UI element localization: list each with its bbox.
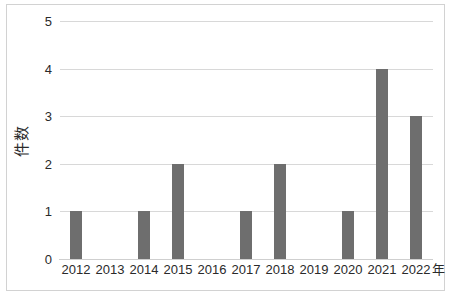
bar bbox=[172, 164, 184, 259]
x-axis-tick-label: 2015 bbox=[164, 262, 193, 278]
bar-slot bbox=[331, 21, 365, 259]
bar-chart: 件数 012345 201220132014201520162017201820… bbox=[0, 0, 451, 296]
bar bbox=[342, 211, 354, 259]
y-axis-tick-label: 1 bbox=[30, 205, 52, 218]
x-axis-tick-label: 2012 bbox=[62, 262, 91, 278]
x-axis-tick-label: 2021 bbox=[368, 262, 397, 278]
gridline bbox=[59, 259, 433, 260]
y-axis-tick-label: 0 bbox=[30, 253, 52, 266]
y-axis-tick-label: 3 bbox=[30, 110, 52, 123]
bar bbox=[240, 211, 252, 259]
x-axis-tick-label: 2013 bbox=[96, 262, 125, 278]
x-axis-tick-label: 2016 bbox=[198, 262, 227, 278]
x-axis-tick-labels: 2012201320142015201620172018201920202021… bbox=[59, 262, 433, 282]
bar-slot bbox=[229, 21, 263, 259]
y-axis-tick-label: 5 bbox=[30, 15, 52, 28]
x-axis-tick-label: 2017 bbox=[232, 262, 261, 278]
plot-area bbox=[59, 21, 433, 259]
bar-slot bbox=[161, 21, 195, 259]
bars-layer bbox=[59, 21, 433, 259]
bar-slot bbox=[399, 21, 433, 259]
bar bbox=[376, 69, 388, 259]
bar bbox=[138, 211, 150, 259]
bar-slot bbox=[127, 21, 161, 259]
y-axis-tick-label: 4 bbox=[30, 62, 52, 75]
x-axis-tick-label: 2019 bbox=[300, 262, 329, 278]
bar-slot bbox=[59, 21, 93, 259]
bar bbox=[274, 164, 286, 259]
bar bbox=[70, 211, 82, 259]
bar bbox=[410, 116, 422, 259]
bar-slot bbox=[263, 21, 297, 259]
bar-slot bbox=[93, 21, 127, 259]
y-axis-tick-labels: 012345 bbox=[16, 0, 52, 296]
bar-slot bbox=[365, 21, 399, 259]
x-axis-tick-label: 2022 bbox=[402, 262, 431, 278]
y-axis-tick-label: 2 bbox=[30, 157, 52, 170]
bar-slot bbox=[297, 21, 331, 259]
x-axis-tick-label: 2020 bbox=[334, 262, 363, 278]
x-axis-tick-label: 2014 bbox=[130, 262, 159, 278]
x-axis-unit-label: 年 bbox=[432, 262, 445, 278]
bar-slot bbox=[195, 21, 229, 259]
x-axis-tick-label: 2018 bbox=[266, 262, 295, 278]
